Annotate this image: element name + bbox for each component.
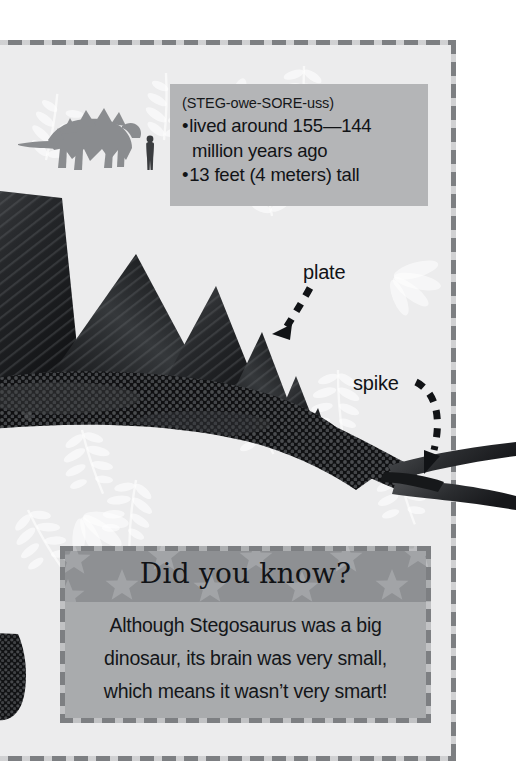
book-page: (STEG-owe-SORE-uss) •lived around 155—14…	[0, 0, 516, 776]
did-you-know-line: Although Stegosaurus was a big	[70, 609, 421, 642]
stegosaurus-illustration	[0, 180, 516, 580]
fact-item: •lived around 155—144	[182, 114, 428, 139]
tail-and-spikes	[324, 424, 516, 510]
did-you-know-border-bottom	[60, 718, 431, 723]
fact-list: •lived around 155—144 million years ago …	[182, 114, 428, 188]
did-you-know-box: Did you know? Although Stegosaurus was a…	[60, 546, 431, 723]
callout-label-plate: plate	[303, 261, 345, 284]
dinosaur-body	[0, 371, 384, 490]
did-you-know-body: Although Stegosaurus was a big dinosaur,…	[60, 602, 431, 723]
did-you-know-header: Did you know?	[60, 546, 431, 602]
did-you-know-line: which means it wasn’t very smart!	[70, 675, 421, 708]
pronunciation-text: (STEG-owe-SORE-uss)	[182, 93, 428, 113]
dinosaur-foot	[0, 632, 44, 732]
human-scale-figure	[146, 136, 154, 170]
fact-text: lived around 155—144	[189, 115, 371, 136]
stegosaurus-scale-silhouette	[14, 92, 164, 182]
page-border-bottom	[0, 756, 456, 761]
fact-item-continuation: million years ago	[182, 139, 428, 164]
page-border-top	[0, 40, 456, 45]
did-you-know-line: dinosaur, its brain was very small,	[70, 642, 421, 675]
callout-label-spike: spike	[353, 372, 399, 395]
fact-text: million years ago	[192, 140, 327, 161]
did-you-know-title: Did you know?	[60, 546, 431, 602]
